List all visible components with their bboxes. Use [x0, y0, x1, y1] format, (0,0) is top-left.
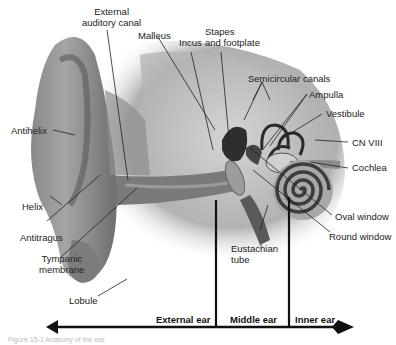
label-line: Eustachian: [231, 243, 278, 254]
label-line: and footplate: [205, 37, 260, 48]
cochlea-shape: [273, 160, 333, 220]
label-malleus: Malleus: [138, 30, 171, 41]
label-antihelix: Antihelix: [11, 125, 47, 136]
label-helix: Helix: [22, 201, 43, 212]
label-cochlea: Cochlea: [352, 162, 387, 173]
label-ampulla: Ampulla: [309, 89, 343, 100]
label-oval-window: Oval window: [335, 211, 389, 222]
label-line: tube: [231, 254, 278, 265]
label-line: Tympanic: [39, 253, 84, 264]
label-antitragus: Antitragus: [20, 232, 63, 243]
ear-illustration: [0, 0, 396, 345]
figure-caption: Figure 15-1 Anatomy of the ear.: [8, 336, 106, 343]
label-cn-viii: CN VIII: [352, 137, 383, 148]
label-vestibule: Vestibule: [326, 108, 365, 119]
region-label-external-ear: External ear: [156, 314, 210, 325]
ear-anatomy-diagram: External auditory canal Malleus Incus St…: [0, 0, 396, 345]
label-incus: Incus: [179, 37, 202, 48]
label-tympanic-membrane: Tympanic membrane: [39, 253, 84, 275]
arrow-left-icon: [46, 320, 58, 334]
label-external-auditory-canal: External auditory canal: [82, 6, 141, 28]
label-stapes: Stapes and footplate: [205, 26, 260, 48]
region-label-inner-ear: Inner ear: [295, 314, 335, 325]
label-line: Stapes: [205, 26, 260, 37]
label-lobule: Lobule: [69, 295, 98, 306]
label-round-window: Round window: [329, 231, 391, 242]
arrow-right-icon: [332, 320, 354, 334]
label-semicircular-canals: Semicircular canals: [248, 73, 330, 84]
label-line: External: [82, 6, 141, 17]
label-line: membrane: [39, 264, 84, 275]
label-line: auditory canal: [82, 17, 141, 28]
label-eustachian-tube: Eustachian tube: [231, 243, 278, 265]
region-label-middle-ear: Middle ear: [230, 314, 277, 325]
